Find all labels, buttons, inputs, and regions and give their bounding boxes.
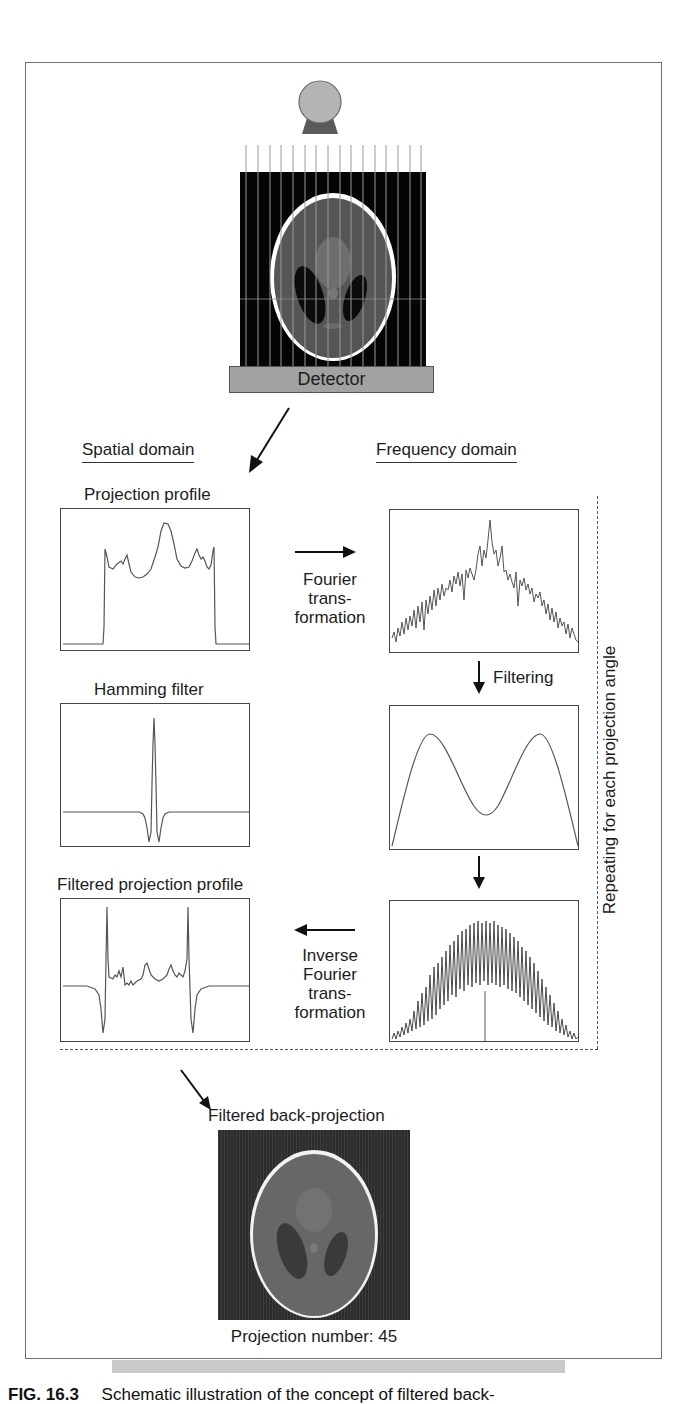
- arrow-down-left-icon: [245, 405, 295, 475]
- figure-caption: FIG. 16.3 Schematic illustration of the …: [8, 1385, 495, 1404]
- arrow-right-icon: [293, 545, 358, 559]
- arrow-left-icon: [293, 923, 358, 937]
- frame-shadow-bar: [112, 1360, 565, 1373]
- projection-number-label: Projection number: 45: [214, 1327, 414, 1347]
- fourier-transformation-label: Fourier trans- formation: [290, 570, 370, 627]
- filtering-label: Filtering: [493, 668, 553, 688]
- text-line: Fourier: [290, 570, 370, 589]
- hamming-filter-plot: [60, 703, 250, 847]
- projection-profile-title: Projection profile: [84, 485, 211, 505]
- loop-label: Repeating for each projection angle: [598, 580, 622, 980]
- phantom-with-rays: [238, 145, 428, 367]
- spatial-domain-heading: Spatial domain: [82, 440, 194, 463]
- text-line: formation: [285, 1003, 375, 1022]
- arrow-down-icon: [472, 855, 486, 890]
- arrow-down-icon: [472, 660, 486, 695]
- text-line: trans-: [290, 589, 370, 608]
- back-projection-image: [218, 1130, 410, 1320]
- filtered-projection-profile-title: Filtered projection profile: [57, 875, 243, 895]
- filter-response-plot: [389, 705, 579, 850]
- x-ray-source-icon: [295, 78, 345, 136]
- text-line: formation: [290, 608, 370, 627]
- fourier-spectrum-plot: [389, 509, 579, 653]
- filtered-projection-profile-plot: [60, 898, 250, 1042]
- caption-text: Schematic illustration of the concept of…: [102, 1385, 495, 1404]
- projection-profile-plot: [60, 508, 250, 651]
- inverse-fourier-transformation-label: Inverse Fourier trans- formation: [285, 946, 375, 1022]
- text-line: Inverse: [285, 946, 375, 965]
- text-line: trans-: [285, 984, 375, 1003]
- loop-bracket-horizontal: [60, 1049, 598, 1050]
- figure-number: FIG. 16.3: [8, 1385, 79, 1404]
- frequency-domain-heading: Frequency domain: [376, 440, 517, 463]
- filtered-spectrum-plot: [389, 900, 579, 1042]
- text-line: Fourier: [285, 965, 375, 984]
- filtered-back-projection-title: Filtered back-projection: [208, 1106, 385, 1126]
- detector: Detector: [229, 366, 434, 393]
- hamming-filter-title: Hamming filter: [94, 680, 204, 700]
